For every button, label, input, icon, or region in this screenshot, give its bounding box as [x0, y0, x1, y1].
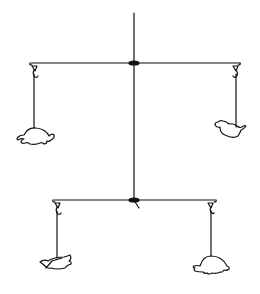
upper-left-hook-icon [32, 66, 38, 77]
turtle-icon [17, 128, 54, 144]
lower-bar [53, 198, 217, 208]
bird-icon [215, 121, 246, 138]
lower-knot [129, 198, 139, 202]
turtle-icon [193, 256, 229, 274]
lower-left-hook-icon [55, 203, 61, 214]
upper-bar [30, 61, 241, 65]
paper-boat-icon [40, 255, 71, 269]
upper-knot [129, 61, 139, 65]
mobile-illustration: Line drawing of a two-tier hanging mobil… [0, 0, 260, 294]
